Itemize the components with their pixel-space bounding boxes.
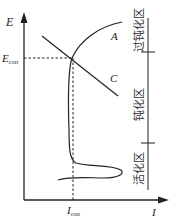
region-label-passive: 钝化区 <box>132 88 146 121</box>
region-label-active: 活化区 <box>132 152 146 185</box>
polarization-diagram: E I Ecorr Icorr A C 过钝化区 钝化区 活化区 <box>0 0 173 221</box>
anodic-curve-a <box>58 22 122 180</box>
cathodic-curve-label: C <box>110 72 118 84</box>
y-axis-label: E <box>5 15 14 29</box>
region-label-transpassive: 过钝化区 <box>132 8 146 52</box>
y-axis-arrow-icon <box>21 12 28 23</box>
i-corr-label: Icorr <box>66 204 80 217</box>
e-corr-label: Ecorr <box>1 52 18 65</box>
anodic-curve-label: A <box>110 30 118 42</box>
x-axis-arrow-icon <box>158 197 169 204</box>
x-axis-label: I <box>151 206 157 218</box>
